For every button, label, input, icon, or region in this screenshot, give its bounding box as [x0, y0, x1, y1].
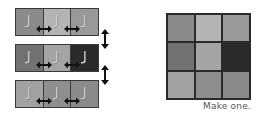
swap-horizontal-arrow-icon[interactable]: [63, 25, 81, 33]
grid-cell: [222, 42, 250, 70]
swap-horizontal-arrow-icon[interactable]: [35, 25, 53, 33]
grid-cell: [167, 14, 195, 42]
strip-row-2: [15, 44, 99, 72]
caption: Make one.: [180, 101, 251, 111]
grid-cell: [222, 71, 250, 99]
target-grid: [166, 13, 251, 100]
swap-vertical-arrow-icon[interactable]: [100, 64, 110, 86]
j-hook-glyph-icon: [23, 14, 33, 28]
j-hook-glyph-icon: [23, 50, 33, 64]
grid-cell: [195, 14, 223, 42]
strip-row-3: [15, 80, 99, 108]
grid-cell: [222, 14, 250, 42]
swap-horizontal-arrow-icon[interactable]: [35, 61, 53, 69]
swap-horizontal-arrow-icon[interactable]: [35, 97, 53, 105]
grid-cell: [167, 71, 195, 99]
grid-cell: [195, 71, 223, 99]
grid-cell: [195, 42, 223, 70]
grid-cell: [167, 42, 195, 70]
swap-horizontal-arrow-icon[interactable]: [63, 61, 81, 69]
strip-row-1: [15, 8, 99, 36]
j-hook-glyph-icon: [23, 86, 33, 100]
swap-vertical-arrow-icon[interactable]: [100, 28, 110, 50]
swap-horizontal-arrow-icon[interactable]: [63, 97, 81, 105]
